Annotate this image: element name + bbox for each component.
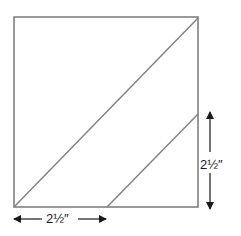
right-dimension-label: 2½″ — [200, 156, 223, 173]
cutting-diagram — [0, 0, 241, 236]
secondary-diagonal-line — [107, 114, 198, 207]
main-diagonal-line — [14, 18, 198, 207]
bottom-dimension-label: 2½″ — [44, 212, 71, 225]
